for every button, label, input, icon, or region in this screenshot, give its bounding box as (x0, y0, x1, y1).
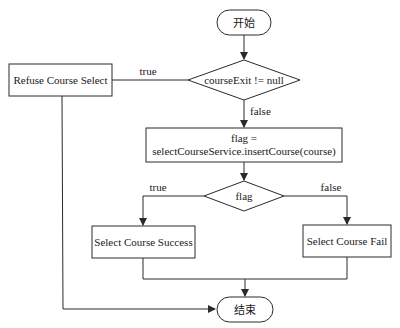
end-label: 结束 (234, 304, 256, 316)
decision2-label: flag (235, 190, 253, 202)
decision2-node: flag (204, 181, 284, 211)
start-node: 开始 (217, 10, 271, 35)
edge-merge (143, 257, 347, 279)
success-label: Select Course Success (94, 236, 192, 248)
edge-label-d1-true: true (139, 65, 156, 77)
flowchart: 开始 courseExit != null true Refuse Course… (0, 0, 400, 328)
fail-node: Select Course Fail (303, 225, 391, 257)
refuse-label: Refuse Course Select (13, 74, 107, 86)
decision1-node: courseExit != null (188, 60, 300, 100)
success-node: Select Course Success (92, 226, 195, 258)
insert-node: flag = selectCourseService.insertCourse(… (146, 128, 342, 162)
insert-label-line1: flag = (231, 132, 257, 144)
end-node: 结束 (217, 297, 273, 322)
edge-label-d2-true: true (149, 181, 166, 193)
decision1-label: courseExit != null (204, 74, 284, 86)
edge-label-d1-false: false (250, 105, 271, 117)
refuse-node: Refuse Course Select (9, 64, 112, 96)
start-label: 开始 (233, 16, 255, 29)
edge-label-d2-false: false (321, 181, 342, 193)
edge-decision2-true (143, 196, 204, 225)
insert-label-line2: selectCourseService.insertCourse(course) (152, 145, 336, 158)
fail-label: Select Course Fail (307, 235, 388, 247)
edge-decision2-false (284, 196, 347, 224)
